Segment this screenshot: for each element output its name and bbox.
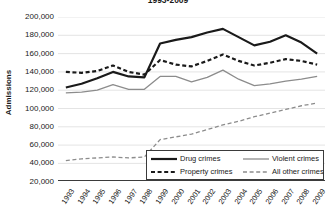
x-tick-label: 1995 (90, 187, 108, 207)
x-tick-label: 2002 (200, 187, 218, 207)
y-tick-label: 60,000 (0, 141, 54, 149)
legend-item-violent-crimes[interactable]: Violent crimes (243, 155, 319, 163)
legend-swatch-icon (151, 168, 177, 176)
x-tick-label: 2009 (310, 187, 328, 207)
y-tick-label: 80,000 (0, 123, 54, 131)
series-line-violent-crimes (66, 70, 317, 93)
legend-item-drug-crimes[interactable]: Drug crimes (151, 155, 220, 163)
x-tick-label: 1996 (106, 187, 124, 207)
y-tick-label: 180,000 (0, 31, 54, 39)
x-tick-label: 2005 (247, 187, 265, 207)
x-tick-label: 2000 (168, 187, 186, 207)
x-tick-label: 1998 (137, 187, 155, 207)
legend-swatch-icon (243, 155, 269, 163)
x-tick-label: 1994 (74, 187, 92, 207)
y-tick-label: 200,000 (0, 13, 54, 21)
series-line-drug-crimes (66, 29, 317, 88)
legend-label: Violent crimes (272, 155, 319, 163)
y-tick-label: 40,000 (0, 159, 54, 167)
y-tick-label: 140,000 (0, 68, 54, 76)
legend-label: Drug crimes (180, 155, 220, 163)
legend-swatch-icon (243, 168, 269, 176)
x-tick-label: 2006 (263, 187, 281, 207)
legend-swatch-icon (151, 155, 177, 163)
y-axis-tick-labels: 200,000180,000160,000140,000120,000100,0… (0, 0, 54, 220)
y-tick-label: 160,000 (0, 50, 54, 58)
x-tick-label: 1999 (153, 187, 171, 207)
legend-label: All other crimes (272, 168, 324, 176)
x-tick-label: 2007 (278, 187, 296, 207)
legend-item-property-crimes[interactable]: Property crimes (151, 168, 233, 176)
legend-item-all-other-crimes[interactable]: All other crimes (243, 168, 324, 176)
y-tick-label: 20,000 (0, 178, 54, 186)
chart-legend: Drug crimesViolent crimesProperty crimes… (146, 150, 324, 180)
line-chart: 1993-2009 Admissions 200,000180,000160,0… (0, 0, 336, 220)
x-tick-label: 1993 (59, 187, 77, 207)
x-tick-label: 2003 (216, 187, 234, 207)
x-tick-label: 2008 (294, 187, 312, 207)
x-axis-tick-labels: 1993199419951996199719981999200020012002… (58, 184, 325, 218)
x-tick-label: 2004 (231, 187, 249, 207)
y-tick-label: 100,000 (0, 105, 54, 113)
x-tick-label: 1997 (121, 187, 139, 207)
legend-label: Property crimes (180, 168, 233, 176)
y-tick-label: 120,000 (0, 86, 54, 94)
x-tick-label: 2001 (184, 187, 202, 207)
